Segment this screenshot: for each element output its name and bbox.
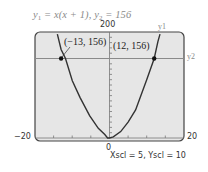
point-label-left: (−13, 156) [64,36,106,47]
xmin-label: −20 [14,132,31,141]
curve-label-y1: y1 [158,22,166,31]
point-label-right: (12, 156) [113,40,150,51]
scale-label: Xscl = 5, Yscl = 10 [110,151,186,160]
xmax-label: 20 [187,132,197,141]
intersection-point-right [152,56,156,60]
ymax-label: 200 [100,20,115,29]
curve-label-y2: y2 [187,52,195,61]
intersection-point-left [59,56,63,60]
